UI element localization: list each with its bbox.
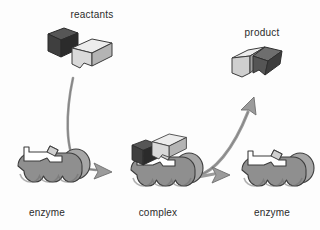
label-reactants: reactants	[71, 9, 114, 20]
label-enzyme-left: enzyme	[29, 207, 65, 218]
diagram-canvas: reactants product enzyme complex enzyme	[0, 0, 320, 230]
reactants-group	[48, 28, 112, 68]
enzyme-reaction-diagram: reactants product enzyme complex enzyme	[0, 0, 320, 230]
label-product: product	[245, 27, 280, 38]
label-complex: complex	[139, 207, 178, 218]
enzyme-left-shape	[18, 146, 90, 182]
enzyme-right-shape	[242, 150, 314, 186]
product-shape	[232, 47, 282, 77]
complex-group	[131, 134, 203, 186]
label-enzyme-right: enzyme	[254, 207, 290, 218]
